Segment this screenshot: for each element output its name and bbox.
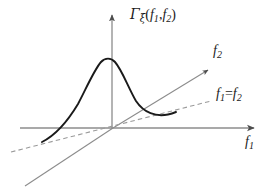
f1-equals-f2-label: f1=f2 — [216, 87, 242, 103]
f2-subscript: 2 — [217, 49, 222, 60]
f2-axis-back-segment — [25, 128, 113, 186]
equals-sign: = — [225, 86, 233, 101]
spectral-correlation-figure: Γξ(f1,f2) f2 f1=f2 f1 — [0, 0, 275, 193]
close-paren: ) — [171, 7, 176, 22]
gamma-symbol: Γ — [130, 6, 140, 22]
diag-f2-subscript: 2 — [237, 92, 242, 103]
vertical-axis-label: Γξ(f1,f2) — [130, 7, 176, 24]
f1-axis-label: f1 — [245, 135, 254, 151]
f1-subscript: 1 — [249, 140, 254, 151]
f2-axis-line — [113, 70, 208, 128]
spectral-correlation-curve — [42, 59, 176, 142]
f2-axis-label: f2 — [213, 44, 222, 60]
f1-equals-f2-dashed-line — [11, 101, 211, 152]
